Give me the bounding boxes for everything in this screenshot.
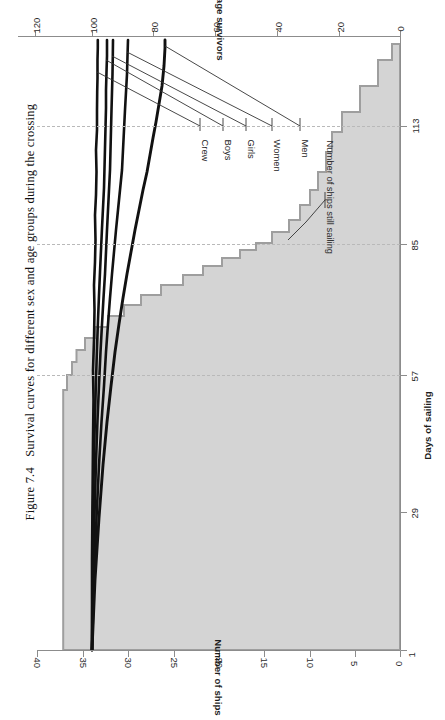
legend-leader-girls (112, 56, 246, 126)
tick-label-top-80: 80 (149, 17, 160, 33)
tick-right-57 (401, 375, 407, 376)
tick-label-right-113: 113 (410, 112, 421, 134)
legend-label-men: Men (300, 140, 311, 158)
gridline-day-85 (37, 244, 400, 245)
legend-label-women: Women (272, 140, 283, 172)
tick-label-bottom-35: 35 (78, 658, 89, 676)
tick-bottom-30 (128, 651, 129, 657)
tick-bottom-0 (400, 651, 401, 657)
axis-title-bottom: Number of ships (213, 618, 224, 720)
tick-label-top-0: 0 (395, 20, 406, 32)
tick-label-top-20: 20 (335, 17, 346, 33)
gridline-day-57 (37, 375, 400, 376)
legend-label-girls: Girls (246, 140, 257, 159)
axis-title-right: Days of sailing (422, 386, 433, 466)
tick-label-bottom-0: 0 (394, 661, 405, 674)
tick-label-right-29: 29 (409, 499, 420, 519)
tick-label-right-1: 1 (406, 644, 417, 658)
tick-label-bottom-5: 5 (349, 661, 360, 674)
legend-leader-women (127, 52, 272, 126)
tick-bottom-25 (174, 651, 175, 657)
tick-label-top-100: 100 (88, 14, 99, 34)
tick-label-bottom-40: 40 (32, 658, 43, 676)
axis-right-line (400, 36, 401, 650)
tick-label-bottom-30: 30 (123, 658, 134, 676)
tick-bottom-10 (310, 651, 311, 657)
tick-label-bottom-25: 25 (169, 658, 180, 676)
legend-label-boys: Boys (223, 140, 234, 161)
annotation-label-ships-still-sailing: Number of ships still sailing (325, 141, 336, 255)
tick-bottom-15 (264, 651, 265, 657)
tick-label-bottom-15: 15 (259, 658, 270, 676)
tick-right-85 (401, 244, 407, 245)
tick-bottom-35 (83, 651, 84, 657)
tick-bottom-5 (355, 651, 356, 657)
tick-right-113 (401, 126, 407, 127)
legend-leader-men (165, 46, 300, 126)
legend-label-crew: Crew (200, 140, 211, 162)
tick-label-right-57: 57 (409, 362, 420, 382)
tick-bottom-40 (37, 651, 38, 657)
tick-label-top-40: 40 (273, 17, 284, 33)
ships-area-fill (63, 44, 400, 650)
axis-title-top: Percentage survivors (215, 0, 226, 72)
tick-label-right-85: 85 (409, 231, 420, 251)
gridline-day-113 (37, 126, 400, 127)
tick-label-top-120: 120 (31, 14, 42, 34)
tick-label-bottom-10: 10 (305, 658, 316, 676)
tick-right-29 (401, 512, 407, 513)
